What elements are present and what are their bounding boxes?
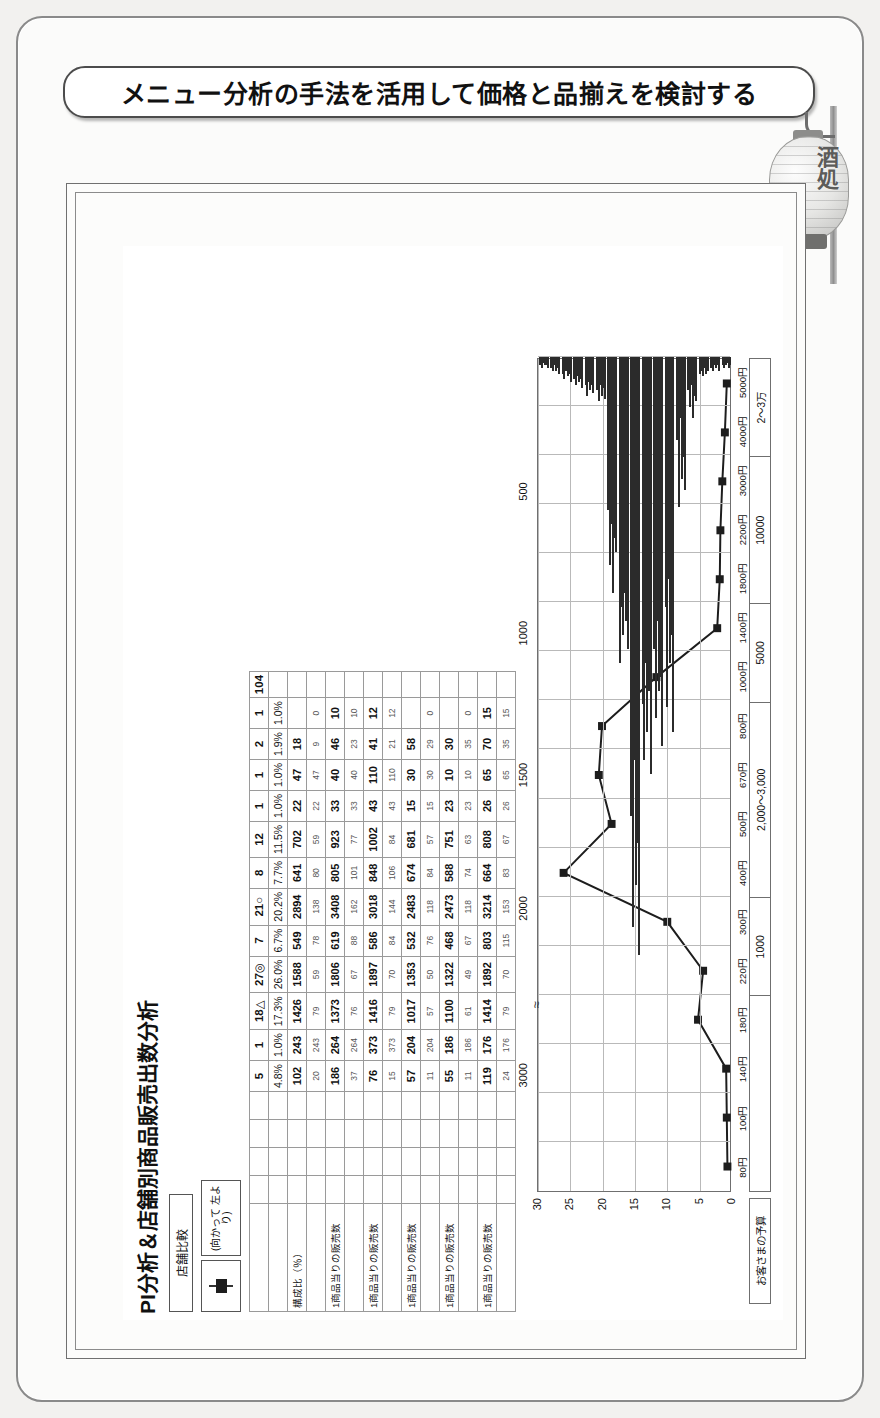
table-cell: 35 <box>459 729 478 760</box>
table-blank-cell <box>383 1148 402 1176</box>
table-cell: 15 <box>402 790 421 821</box>
table-cell: 12 <box>364 698 383 729</box>
table-blank-cell <box>402 1148 421 1176</box>
table-total-header: 104 <box>250 671 269 697</box>
budget-band: 1000 <box>750 897 770 995</box>
price-tick-label: 3000円 <box>735 465 749 496</box>
table-cell: 49 <box>459 956 478 993</box>
table-blank-cell <box>307 1120 326 1148</box>
table-cell: 79 <box>383 993 402 1030</box>
table-cell: 1426 <box>288 993 307 1030</box>
bar <box>547 357 549 368</box>
table-cell: 20 <box>307 1061 326 1092</box>
legend-order-note-label: (向かって 左より) <box>210 1181 232 1255</box>
table-cell: 243 <box>288 1030 307 1061</box>
table-blank-cell <box>440 1120 459 1148</box>
table-blank-cell <box>326 1148 345 1176</box>
gridline-vertical <box>538 994 730 995</box>
bar <box>729 357 731 365</box>
table-blank-cell <box>326 1092 345 1120</box>
y-axis-tick-label: 15 <box>628 1198 640 1228</box>
table-blank-cell <box>421 1120 440 1148</box>
table-col-header: 1 <box>250 790 269 821</box>
legend-marker-swatch <box>201 1260 241 1312</box>
table-total-cell <box>402 671 421 697</box>
table-blank-cell <box>497 1092 516 1120</box>
table-cell: 1.0% <box>269 760 288 791</box>
table-col-header: 21○ <box>250 888 269 925</box>
table-blank-cell <box>440 1092 459 1120</box>
table-cell: 923 <box>326 821 345 857</box>
line-marker <box>608 820 616 828</box>
table-row: 構成比（％）102243142615885492894641702224718 <box>288 671 307 1311</box>
analysis-sheet: PI分析＆店舗別商品販売出数分析 店舗比較 (向かって 左より) <box>123 246 783 1320</box>
table-cell: 23 <box>459 790 478 821</box>
table-total-cell <box>269 671 288 697</box>
table-blank-cell <box>288 1176 307 1204</box>
table-cell: 2473 <box>440 888 459 925</box>
table-cell: 586 <box>364 925 383 956</box>
price-tick-label: 500円 <box>735 811 749 837</box>
table-cell: 186 <box>459 1030 478 1061</box>
gridline-vertical <box>538 945 730 946</box>
table-cell: 70 <box>383 956 402 993</box>
table-cell: 46 <box>326 729 345 760</box>
table-cell: 186 <box>440 1030 459 1061</box>
table-row-label: 1商品当りの販売数 <box>478 1204 497 1312</box>
table-col-header: 18△ <box>250 993 269 1030</box>
table-cell: 20.2% <box>269 888 288 925</box>
table-blank-cell <box>364 1092 383 1120</box>
bar <box>684 357 686 490</box>
table-cell: 43 <box>383 790 402 821</box>
table-row-label <box>383 1204 402 1312</box>
table-cell: 76 <box>345 993 364 1030</box>
table-cell: 119 <box>478 1061 497 1092</box>
table-cell: 17.3% <box>269 993 288 1030</box>
secondary-axis-tick-label: 3000 <box>517 1063 529 1087</box>
lantern-label: 酒処 <box>805 146 837 190</box>
secondary-axis-tick-label: 1000 <box>517 621 529 645</box>
table-col-header: 8 <box>250 857 269 888</box>
table-cell: 15 <box>478 698 497 729</box>
price-tick-label: 4000円 <box>735 416 749 447</box>
table-cell: 30 <box>440 729 459 760</box>
table-cell: 2894 <box>288 888 307 925</box>
table-col-header: 27◎ <box>250 956 269 993</box>
table-cell: 3214 <box>478 888 497 925</box>
table-cell: 30 <box>421 760 440 791</box>
table-cell: 468 <box>440 925 459 956</box>
table-blank-cell <box>345 1092 364 1120</box>
table-cell: 57 <box>421 993 440 1030</box>
bar <box>615 357 617 552</box>
table-cell: 70 <box>478 729 497 760</box>
table-total-cell <box>459 671 478 697</box>
table-cell: 1002 <box>364 821 383 857</box>
table-cell: 1897 <box>364 956 383 993</box>
table-cell: 110 <box>383 760 402 791</box>
table-cell: 848 <box>364 857 383 888</box>
table-cell: 204 <box>421 1030 440 1061</box>
table-cell: 26.0% <box>269 956 288 993</box>
table-cell: 40 <box>326 760 345 791</box>
table-cell: 176 <box>497 1030 516 1061</box>
legend-store-comparison-label: 店舗比較 <box>173 1229 190 1277</box>
table-cell: 1588 <box>288 956 307 993</box>
table-cell: 1414 <box>478 993 497 1030</box>
table-cell: 1.0% <box>269 790 288 821</box>
table-cell: 1017 <box>402 993 421 1030</box>
table-total-cell <box>497 671 516 697</box>
table-cell: 26 <box>478 790 497 821</box>
table-cell: 63 <box>459 821 478 857</box>
y-axis-tick-label: 20 <box>596 1198 608 1228</box>
table-cell: 641 <box>288 857 307 888</box>
price-tick-label: 800円 <box>735 713 749 739</box>
table-row: 241767970115153836726653515 <box>497 671 516 1311</box>
table-cell: 1100 <box>440 993 459 1030</box>
table-cell: 751 <box>440 821 459 857</box>
table-blank-cell <box>478 1120 497 1148</box>
table-total-cell <box>421 671 440 697</box>
table-cell: 37 <box>345 1061 364 1092</box>
table-cell: 101 <box>345 857 364 888</box>
table-cell: 84 <box>383 925 402 956</box>
table-header-row: 5118△27◎721○8121121104 <box>250 671 269 1311</box>
